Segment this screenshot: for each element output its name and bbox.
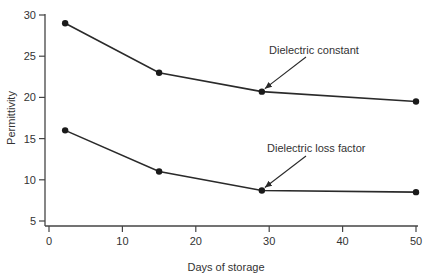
annotation-dielectric-loss-factor: Dielectric loss factor	[267, 142, 366, 154]
x-tick-label: 10	[116, 235, 128, 247]
series-line-dielectric-constant	[65, 23, 416, 101]
x-tick-label: 0	[46, 235, 52, 247]
x-tick-label: 20	[190, 235, 202, 247]
data-series	[62, 20, 419, 195]
data-point	[413, 98, 419, 104]
x-tick-label: 50	[410, 235, 422, 247]
annotation-arrows	[265, 57, 306, 188]
x-tick-label: 40	[336, 235, 348, 247]
x-axis-label: Days of storage	[187, 261, 264, 273]
y-tick-label: 25	[24, 50, 36, 62]
series-line-dielectric-loss-factor	[65, 130, 416, 192]
data-point	[413, 189, 419, 195]
y-tick-label: 30	[24, 9, 36, 21]
y-tick-label: 10	[24, 174, 36, 186]
data-point	[259, 187, 265, 193]
data-point	[156, 69, 162, 75]
data-point	[156, 168, 162, 174]
y-tick-label: 20	[24, 91, 36, 103]
arrow-icon	[265, 57, 306, 89]
arrow-icon	[265, 156, 306, 188]
y-axis-label: Permittivity	[5, 91, 17, 145]
x-tick-label: 30	[263, 235, 275, 247]
data-point	[62, 20, 68, 26]
y-tick-label: 5	[30, 215, 36, 227]
data-point	[62, 127, 68, 133]
annotation-dielectric-constant: Dielectric constant	[269, 44, 359, 56]
data-point	[259, 88, 265, 94]
axes: 5101520253001020304050	[24, 9, 422, 247]
y-tick-label: 15	[24, 133, 36, 145]
permittivity-line-chart: 5101520253001020304050 Days of storage P…	[0, 0, 435, 276]
